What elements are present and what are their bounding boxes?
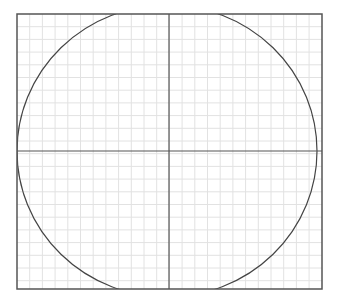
- circle-grid-diagram: [0, 0, 340, 304]
